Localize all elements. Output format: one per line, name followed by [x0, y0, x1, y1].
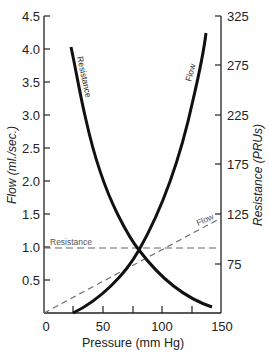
tick-label: 2.0 — [22, 174, 40, 189]
tick-label: 0.5 — [22, 273, 40, 288]
tick-label: 150 — [211, 319, 233, 334]
tick-label: 325 — [227, 9, 249, 24]
tick-label: 0 — [42, 319, 49, 334]
y2-axis-title: Resistance (PRUs) — [251, 124, 265, 226]
bottom-tick-labels: 0 50 100 150 — [42, 319, 232, 334]
x-axis-title: Pressure (mm Hg) — [82, 336, 184, 350]
tick-label: 1.0 — [22, 240, 40, 255]
dashed-flow-label: Flow — [195, 211, 216, 228]
tick-label: 175 — [227, 157, 249, 172]
right-ticks — [215, 16, 221, 264]
bottom-ticks — [73, 306, 192, 313]
tick-label: 3.0 — [22, 108, 40, 123]
left-tick-labels: 4.5 4.0 3.5 3.0 2.5 2.0 1.5 1.0 0.5 — [22, 9, 40, 288]
y-axis-title: Flow (ml./sec.) — [5, 126, 19, 204]
plot-frame — [44, 16, 221, 313]
tick-label: 1.5 — [22, 207, 40, 222]
chart: 4.5 4.0 3.5 3.0 2.5 2.0 1.5 1.0 0.5 325 … — [0, 0, 269, 355]
flow-curve-label: Flow — [183, 62, 198, 83]
tick-label: 100 — [151, 319, 173, 334]
tick-label: 4.0 — [22, 42, 40, 57]
right-tick-labels: 325 275 225 175 125 75 — [227, 9, 249, 272]
tick-label: 2.5 — [22, 141, 40, 156]
tick-label: 275 — [227, 58, 249, 73]
tick-label: 3.5 — [22, 75, 40, 90]
tick-label: 125 — [227, 207, 249, 222]
tick-label: 225 — [227, 108, 249, 123]
tick-label: 50 — [96, 319, 110, 334]
dashed-resistance-label: Resistance — [50, 237, 92, 247]
tick-label: 4.5 — [22, 9, 40, 24]
tick-label: 75 — [227, 257, 241, 272]
